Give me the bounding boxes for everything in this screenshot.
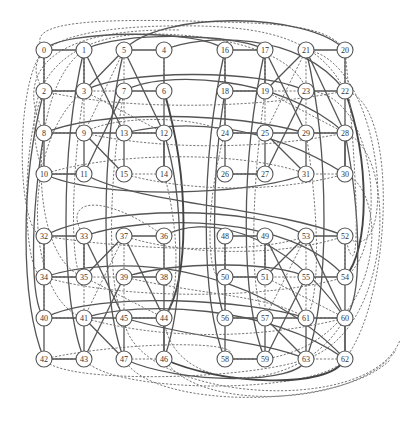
node-label: 13	[120, 129, 128, 138]
graph-node: 22	[337, 83, 353, 99]
nodes-layer: 0123456789101112131415161718192021222324…	[36, 42, 353, 367]
graph-node: 4	[156, 42, 172, 58]
graph-diagram: 0123456789101112131415161718192021222324…	[0, 0, 410, 429]
node-label: 49	[261, 232, 269, 241]
node-label: 40	[40, 314, 48, 323]
node-label: 28	[341, 129, 349, 138]
node-label: 41	[80, 314, 88, 323]
graph-node: 12	[156, 125, 172, 141]
graph-node: 41	[76, 310, 92, 326]
graph-node: 29	[298, 125, 314, 141]
node-label: 62	[341, 355, 349, 364]
graph-node: 49	[257, 228, 273, 244]
node-label: 50	[221, 273, 229, 282]
graph-node: 52	[337, 228, 353, 244]
graph-node: 9	[76, 125, 92, 141]
graph-node: 1	[76, 42, 92, 58]
graph-node: 3	[76, 83, 92, 99]
graph-node: 34	[36, 269, 52, 285]
graph-node: 47	[116, 351, 132, 367]
graph-node: 57	[257, 310, 273, 326]
graph-node: 60	[337, 310, 353, 326]
graph-node: 35	[76, 269, 92, 285]
node-label: 15	[120, 170, 128, 179]
graph-node: 55	[298, 269, 314, 285]
graph-node: 20	[337, 42, 353, 58]
node-label: 44	[160, 314, 168, 323]
graph-node: 63	[298, 351, 314, 367]
node-label: 14	[160, 170, 168, 179]
edge	[265, 318, 306, 359]
node-label: 36	[160, 232, 168, 241]
node-label: 42	[40, 355, 48, 364]
graph-node: 31	[298, 166, 314, 182]
node-label: 17	[261, 46, 269, 55]
node-label: 22	[341, 87, 349, 96]
graph-node: 15	[116, 166, 132, 182]
graph-node: 59	[257, 351, 273, 367]
node-label: 46	[160, 355, 168, 364]
graph-node: 33	[76, 228, 92, 244]
graph-node: 21	[298, 42, 314, 58]
graph-node: 19	[257, 83, 273, 99]
node-label: 4	[162, 46, 166, 55]
edge	[84, 50, 124, 91]
node-label: 12	[160, 129, 168, 138]
node-label: 29	[302, 129, 310, 138]
node-label: 57	[261, 314, 269, 323]
node-label: 47	[120, 355, 128, 364]
graph-node: 44	[156, 310, 172, 326]
node-label: 43	[80, 355, 88, 364]
graph-node: 18	[217, 83, 233, 99]
node-label: 37	[120, 232, 128, 241]
graph-node: 45	[116, 310, 132, 326]
node-label: 59	[261, 355, 269, 364]
graph-node: 43	[76, 351, 92, 367]
graph-node: 26	[217, 166, 233, 182]
graph-node: 28	[337, 125, 353, 141]
graph-node: 48	[217, 228, 233, 244]
node-label: 39	[120, 273, 128, 282]
graph-node: 16	[217, 42, 233, 58]
node-label: 2	[42, 87, 46, 96]
graph-node: 11	[76, 166, 92, 182]
graph-node: 42	[36, 351, 52, 367]
node-label: 30	[341, 170, 349, 179]
graph-node: 32	[36, 228, 52, 244]
graph-node: 5	[116, 42, 132, 58]
graph-node: 14	[156, 166, 172, 182]
graph-node: 56	[217, 310, 233, 326]
node-label: 23	[302, 87, 310, 96]
node-label: 31	[302, 170, 310, 179]
graph-node: 6	[156, 83, 172, 99]
graph-node: 62	[337, 351, 353, 367]
node-label: 52	[341, 232, 349, 241]
node-label: 54	[341, 273, 349, 282]
graph-node: 8	[36, 125, 52, 141]
node-label: 56	[221, 314, 229, 323]
graph-node: 40	[36, 310, 52, 326]
graph-node: 25	[257, 125, 273, 141]
graph-node: 50	[217, 269, 233, 285]
graph-node: 53	[298, 228, 314, 244]
node-label: 60	[341, 314, 349, 323]
graph-node: 13	[116, 125, 132, 141]
graph-node: 23	[298, 83, 314, 99]
node-label: 26	[221, 170, 229, 179]
graph-node: 58	[217, 351, 233, 367]
node-label: 58	[221, 355, 229, 364]
node-label: 1	[82, 46, 86, 55]
node-label: 11	[80, 170, 88, 179]
node-label: 9	[82, 129, 86, 138]
graph-node: 2	[36, 83, 52, 99]
graph-node: 51	[257, 269, 273, 285]
node-label: 7	[122, 87, 126, 96]
graph-node: 7	[116, 83, 132, 99]
graph-node: 30	[337, 166, 353, 182]
node-label: 10	[40, 170, 48, 179]
graph-node: 0	[36, 42, 52, 58]
node-label: 45	[120, 314, 128, 323]
node-label: 63	[302, 355, 310, 364]
node-label: 19	[261, 87, 269, 96]
graph-node: 37	[116, 228, 132, 244]
